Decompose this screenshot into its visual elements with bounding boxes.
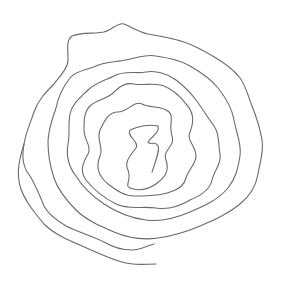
spiral-drawing	[0, 0, 286, 283]
spiral-outer-stroke	[18, 144, 156, 265]
spiral-stroke	[23, 24, 263, 250]
spiral-drawing-canvas	[0, 0, 286, 283]
